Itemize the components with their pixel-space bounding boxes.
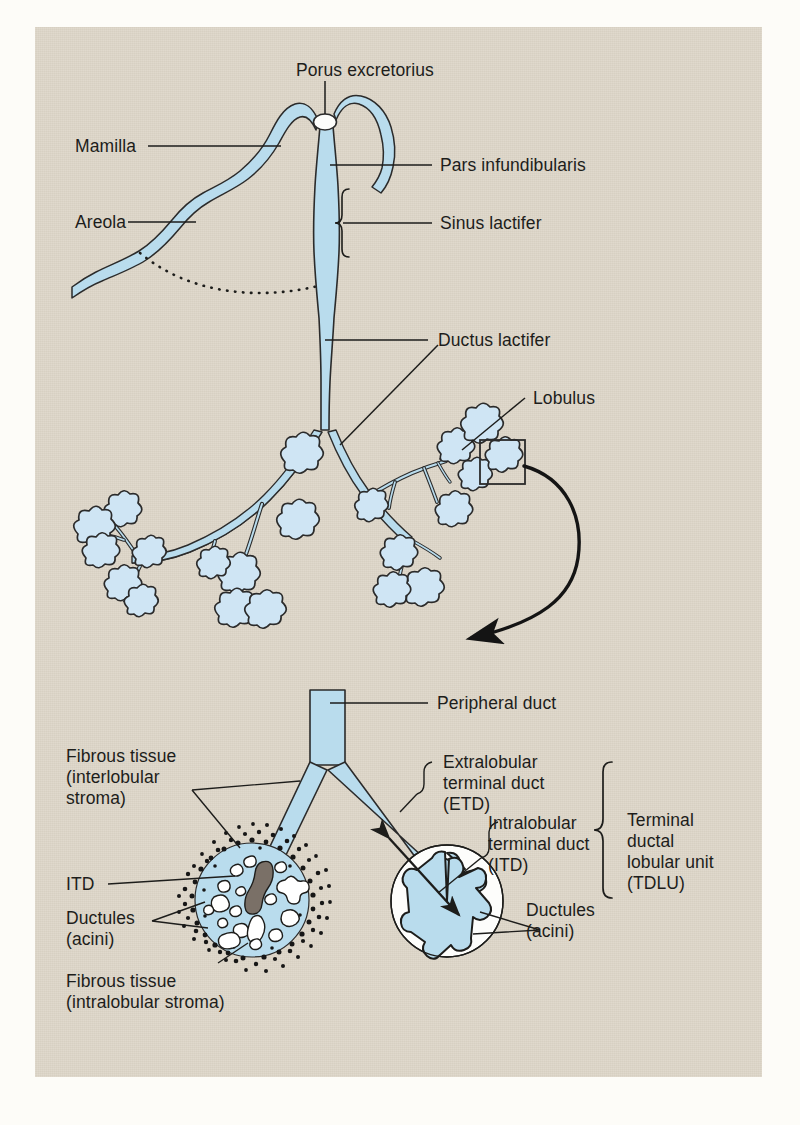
label-itd-short: ITD [66, 874, 95, 895]
brace-tdlu [594, 762, 612, 898]
label-ductus-lactifer: Ductus lactifer [438, 330, 550, 351]
duct-subbranch-r5-inner [438, 463, 450, 482]
lobule-cluster [74, 403, 523, 628]
label-itd-line3: (ITD) [488, 855, 528, 876]
lobule [355, 488, 389, 522]
lobule [458, 457, 492, 491]
label-peripheral-duct: Peripheral duct [437, 693, 556, 714]
lobule [245, 590, 287, 629]
label-lobulus: Lobulus [533, 388, 595, 409]
label-etd-line1: Extralobular [443, 752, 538, 773]
skin-contour-right [334, 95, 395, 193]
leader-etd [400, 794, 417, 812]
lactiferous-duct-main [314, 126, 340, 430]
areola-dotted-boundary [140, 253, 318, 293]
lobule [197, 546, 231, 579]
label-fibrous-tissue-interlobular-line3: stroma) [66, 788, 126, 809]
label-etd-line3: (ETD) [443, 794, 490, 815]
label-pars-infundibularis: Pars infundibularis [440, 155, 586, 176]
label-tdlu-line1: Terminal [627, 810, 694, 831]
label-sinus-lactifer: Sinus lactifer [440, 213, 542, 234]
label-porus-excretorius: Porus excretorius [296, 60, 434, 81]
lobule [132, 535, 166, 568]
lobule-highlighted [485, 437, 523, 473]
label-areola: Areola [75, 212, 126, 233]
lobule [435, 491, 473, 527]
label-fibrous-tissue-intralobular-line1: Fibrous tissue [66, 971, 176, 992]
label-fibrous-tissue-interlobular-line2: (interlobular [66, 767, 160, 788]
lobule [380, 535, 418, 571]
label-tdlu-line2: ductal [627, 831, 674, 852]
label-fibrous-tissue-interlobular-line1: Fibrous tissue [66, 746, 176, 767]
peripheral-duct [310, 690, 345, 765]
anatomical-figure: Porus excretorius Mamilla Pars infundibu… [0, 0, 800, 1125]
left-lobule [177, 822, 332, 973]
label-ductules-acini-left-line1: Ductules [66, 908, 135, 929]
leader-ductus-b [340, 345, 438, 445]
lobule [281, 432, 324, 473]
lobule [277, 499, 320, 539]
skin-contour-band [72, 103, 318, 298]
duct-branch-right-main-fill [328, 430, 412, 543]
label-itd-line1: Intralobular [488, 813, 577, 834]
label-fibrous-tissue-intralobular-line2: (intralobular stroma) [66, 992, 225, 1013]
label-tdlu-line4: (TDLU) [627, 873, 685, 894]
diagram-artwork [0, 0, 800, 1125]
label-ductules-acini-right-line2: (acini) [526, 921, 574, 942]
duct-subbranch-r2-inner [424, 468, 437, 502]
label-ductules-acini-left-line2: (acini) [66, 929, 114, 950]
lobule [82, 533, 120, 568]
label-ductules-acini-right-line1: Ductules [526, 900, 595, 921]
bracket-etd [417, 762, 432, 794]
label-tdlu-line3: lobular unit [627, 852, 714, 873]
lobule [373, 572, 411, 608]
magnify-arrow [472, 466, 579, 638]
porus-excretorius-opening [314, 114, 337, 130]
lobule [124, 584, 158, 617]
label-mamilla: Mamilla [75, 136, 136, 157]
label-etd-line2: terminal duct [443, 773, 544, 794]
lobule [461, 403, 504, 443]
label-itd-line2: terminal duct [488, 834, 589, 855]
